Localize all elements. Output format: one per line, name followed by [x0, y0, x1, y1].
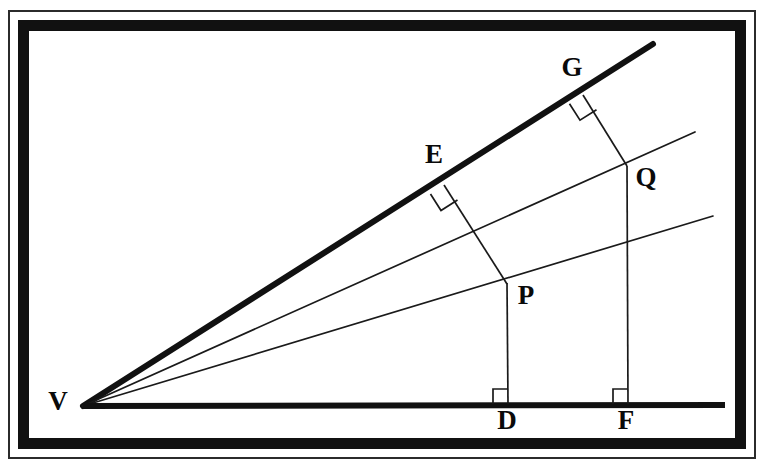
label-Q: Q — [635, 162, 656, 192]
diagram-canvas: V E G P Q D F — [0, 0, 764, 469]
label-D: D — [497, 405, 517, 435]
label-G: G — [561, 52, 582, 82]
label-E: E — [425, 139, 443, 169]
segment-PD — [507, 283, 508, 404]
label-V: V — [48, 386, 68, 416]
segment-QF — [627, 166, 628, 404]
geometry-figure: V E G P Q D F — [0, 0, 764, 469]
label-F: F — [618, 405, 635, 435]
label-P: P — [518, 280, 535, 310]
